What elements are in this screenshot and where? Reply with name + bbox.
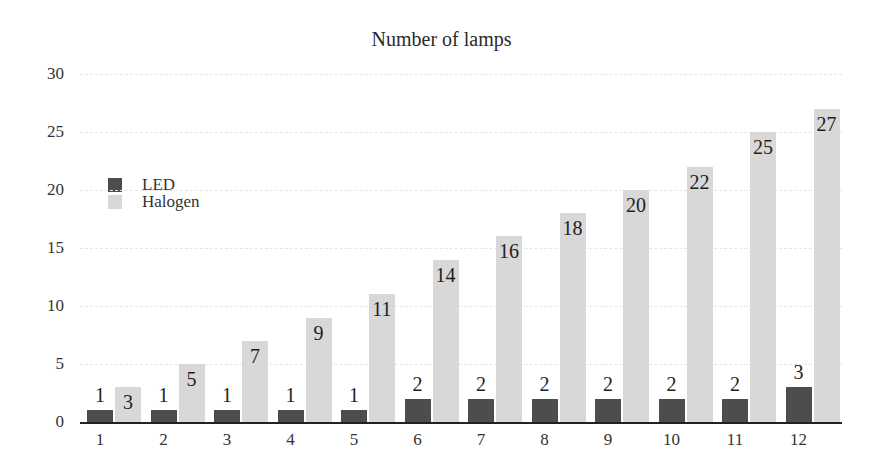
- led-bar: [722, 399, 748, 422]
- x-tick-label: 6: [398, 430, 438, 450]
- led-value-label: 1: [334, 384, 374, 407]
- halogen-value-label: 20: [616, 194, 656, 217]
- halogen-value-label: 7: [235, 345, 275, 368]
- halogen-value-label: 5: [172, 368, 212, 391]
- led-value-label: 1: [271, 384, 311, 407]
- halogen-value-label: 27: [807, 113, 847, 136]
- led-bar: [595, 399, 621, 422]
- led-value-label: 2: [652, 373, 692, 396]
- halogen-value-label: 16: [489, 240, 529, 263]
- halogen-bar: [496, 236, 522, 422]
- led-bar: [405, 399, 431, 422]
- x-tick-label: 4: [271, 430, 311, 450]
- y-tick-label: 30: [28, 64, 64, 84]
- halogen-value-label: 25: [743, 136, 783, 159]
- x-tick-label: 8: [525, 430, 565, 450]
- x-tick-label: 9: [588, 430, 628, 450]
- y-tick-label: 15: [28, 238, 64, 258]
- x-tick-label: 11: [715, 430, 755, 450]
- led-bar: [341, 410, 367, 422]
- led-bar: [659, 399, 685, 422]
- chart-title: Number of lamps: [0, 28, 883, 51]
- legend-swatch-halogen: [108, 195, 122, 209]
- x-axis-line: [80, 422, 842, 424]
- led-bar: [786, 387, 812, 422]
- halogen-bar: [814, 109, 840, 422]
- gridline: [80, 190, 842, 191]
- x-tick-label: 5: [334, 430, 374, 450]
- y-tick-label: 25: [28, 122, 64, 142]
- x-tick-label: 3: [207, 430, 247, 450]
- x-tick-label: 7: [461, 430, 501, 450]
- gridline: [80, 306, 842, 307]
- led-value-label: 2: [588, 373, 628, 396]
- halogen-value-label: 9: [299, 322, 339, 345]
- x-tick-label: 1: [80, 430, 120, 450]
- halogen-bar: [623, 190, 649, 422]
- halogen-bar: [687, 167, 713, 422]
- x-tick-label: 12: [779, 430, 819, 450]
- x-tick-label: 10: [652, 430, 692, 450]
- led-value-label: 1: [207, 384, 247, 407]
- led-value-label: 2: [715, 373, 755, 396]
- gridline: [80, 74, 842, 75]
- gridline: [80, 132, 842, 133]
- legend-item-halogen: Halogen: [108, 193, 200, 210]
- led-bar: [151, 410, 177, 422]
- halogen-value-label: 3: [108, 391, 148, 414]
- led-value-label: 2: [525, 373, 565, 396]
- halogen-value-label: 14: [426, 264, 466, 287]
- y-tick-label: 5: [28, 354, 64, 374]
- led-bar: [278, 410, 304, 422]
- y-tick-label: 0: [28, 412, 64, 432]
- led-value-label: 2: [398, 373, 438, 396]
- led-bar: [214, 410, 240, 422]
- led-value-label: 3: [779, 361, 819, 384]
- led-bar: [532, 399, 558, 422]
- halogen-value-label: 11: [362, 298, 402, 321]
- legend-label-halogen: Halogen: [142, 192, 200, 212]
- y-tick-label: 20: [28, 180, 64, 200]
- y-tick-label: 10: [28, 296, 64, 316]
- halogen-bar: [560, 213, 586, 422]
- gridline: [80, 248, 842, 249]
- halogen-bar: [750, 132, 776, 422]
- halogen-value-label: 22: [680, 171, 720, 194]
- legend: LED Halogen: [108, 176, 200, 210]
- led-bar: [468, 399, 494, 422]
- x-tick-label: 2: [144, 430, 184, 450]
- led-value-label: 2: [461, 373, 501, 396]
- halogen-value-label: 18: [553, 217, 593, 240]
